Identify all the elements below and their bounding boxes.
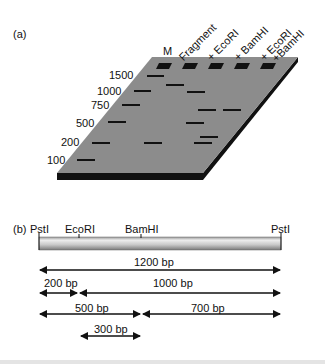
- fragment-label-500: 500 bp: [75, 302, 109, 314]
- marker-label-200: 200: [61, 136, 79, 148]
- bottom-strip: [0, 360, 325, 364]
- fragment-label-700: 700 bp: [191, 302, 225, 314]
- fragment-label-1000: 1000 bp: [153, 277, 193, 289]
- fragment-label-200: 200 bp: [44, 277, 78, 289]
- marker-label-750: 750: [91, 99, 109, 111]
- marker-label-100: 100: [47, 154, 65, 166]
- lane-label-m: M: [163, 45, 172, 57]
- fragment-label-300: 300 bp: [94, 323, 128, 335]
- panel-b-label: (b): [13, 223, 26, 235]
- site-label-psti-right: PstI: [271, 223, 290, 235]
- restriction-map: [39, 233, 281, 250]
- marker-label-500: 500: [76, 117, 94, 129]
- site-label-ecori: EcoRI: [65, 223, 95, 235]
- site-label-psti-left: PstI: [30, 223, 49, 235]
- marker-label-1500: 1500: [109, 69, 133, 81]
- marker-label-1000: 1000: [97, 85, 121, 97]
- fragment-label-1200: 1200 bp: [134, 256, 174, 268]
- site-label-bamhi: BamHI: [125, 223, 159, 235]
